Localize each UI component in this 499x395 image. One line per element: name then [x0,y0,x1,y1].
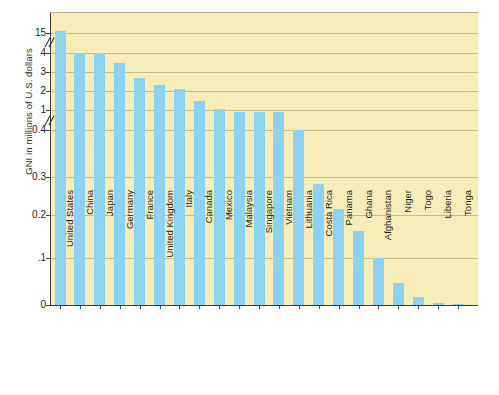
x-tick-mark [140,306,141,309]
y-tick-mark [46,258,51,259]
x-tick-label: Japan [104,190,115,310]
x-tick-mark [160,306,161,309]
gridline [50,33,478,34]
y-tick-mark [46,33,51,34]
x-tick-label: Lithuania [303,190,314,310]
y-tick-mark [46,130,51,131]
y-tick-mark [46,177,51,178]
x-tick-mark [279,306,280,309]
x-tick-label: Tonga [462,190,473,310]
y-tick-mark [46,53,51,54]
x-tick-label: United Kingdom [164,190,175,310]
x-tick-mark [239,306,240,309]
x-tick-label: Niger [402,190,413,310]
x-tick-mark [418,306,419,309]
x-tick-label: China [84,190,95,310]
x-tick-label: Vietnam [283,190,294,310]
y-tick-label-4: 4 [2,48,46,58]
x-tick-label: Mexico [223,190,234,310]
x-tick-mark [378,306,379,309]
y-tick-mark [46,110,51,111]
x-tick-label: Afghanistan [382,190,393,310]
x-tick-label: Costa Rica [323,190,334,310]
x-tick-mark [438,306,439,309]
y-tick-mark [46,72,51,73]
x-tick-label: Malaysia [243,190,254,310]
y-tick-label-0p3: 0.3 [2,172,46,182]
x-tick-label: Ghana [363,190,374,310]
x-tick-mark [199,306,200,309]
x-tick-mark [398,306,399,309]
y-tick-label-3: 3 [2,67,46,77]
gridline [50,53,478,54]
x-tick-label: Togo [422,190,433,310]
y-tick-mark [46,91,51,92]
y-tick-label-2: 2 [2,86,46,96]
x-tick-label: Panama [343,190,354,310]
x-tick-mark [359,306,360,309]
x-tick-mark [120,306,121,309]
axis-break-mark-1 [45,37,57,48]
x-tick-mark [319,306,320,309]
x-axis-tick-labels: United StatesChinaJapanGermanyFranceUnit… [0,306,499,395]
x-tick-mark [339,306,340,309]
x-tick-label: France [144,190,155,310]
chart-figure: GNI in millions of U.S. dollars 1543210.… [0,0,499,395]
x-tick-mark [458,306,459,309]
axis-break-mark-2 [45,115,57,126]
x-tick-mark [219,306,220,309]
y-tick-label-0p2: 0.2 [2,210,46,220]
x-tick-mark [259,306,260,309]
x-tick-label: Canada [203,190,214,310]
x-tick-label: United States [64,190,75,310]
x-tick-mark [179,306,180,309]
x-tick-label: Germany [124,190,135,310]
x-tick-label: Italy [183,190,194,310]
y-tick-label-15: 15 [2,28,46,38]
y-tick-label-1: 1 [2,105,46,115]
x-tick-mark [299,306,300,309]
x-tick-mark [60,306,61,309]
y-axis-line [50,13,51,306]
y-tick-label-0p4: 0.4 [2,125,46,135]
x-tick-mark [80,306,81,309]
x-tick-mark [100,306,101,309]
y-tick-label-p1: .1 [2,253,46,263]
x-tick-label: Singapore [263,190,274,310]
x-tick-label: Liberia [442,190,453,310]
y-tick-mark [46,215,51,216]
